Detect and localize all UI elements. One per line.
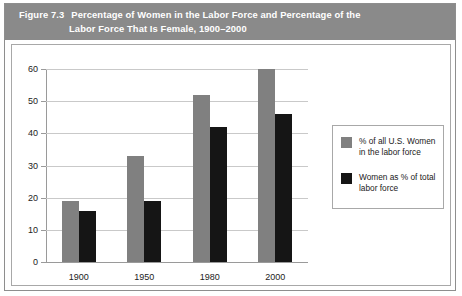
y-tick-40 <box>41 133 46 134</box>
y-axis-label-30: 30 <box>28 161 38 171</box>
figure-container: Figure 7.3Percentage of Women in the Lab… <box>4 3 456 291</box>
y-tick-30 <box>41 166 46 167</box>
y-axis-label-40: 40 <box>28 128 38 138</box>
x-axis-label-2000: 2000 <box>265 272 285 282</box>
figure-title-line-2: Labor Force That Is Female, 1900–2000 <box>19 22 445 36</box>
legend-label-series-a: % of all U.S. Women in the labor force <box>359 136 438 158</box>
gridline-0 <box>46 262 308 263</box>
bar-1900-series-1 <box>62 201 79 262</box>
y-axis-label-60: 60 <box>28 64 38 74</box>
legend-swatch-icon-series-a <box>341 137 352 148</box>
bar-1980-series-2 <box>210 127 227 262</box>
bar-1950-series-1 <box>127 156 144 262</box>
figure-title-line-1: Percentage of Women in the Labor Force a… <box>71 9 360 20</box>
x-axis-label-1950: 1950 <box>134 272 154 282</box>
bar-2000-series-2 <box>275 114 292 262</box>
x-axis-label-1900: 1900 <box>69 272 89 282</box>
y-axis-label-10: 10 <box>28 225 38 235</box>
x-axis-label-1980: 1980 <box>200 272 220 282</box>
chart-panel: 0102030405060 1900195019802000 % of all … <box>11 44 451 286</box>
y-tick-10 <box>41 230 46 231</box>
figure-header-band: Figure 7.3Percentage of Women in the Lab… <box>5 4 455 40</box>
legend-item-series-b: Women as % of total labor force <box>341 172 438 194</box>
y-axis-label-0: 0 <box>33 257 38 267</box>
y-axis-label-50: 50 <box>28 96 38 106</box>
y-tick-60 <box>41 69 46 70</box>
y-tick-20 <box>41 198 46 199</box>
figure-label: Figure 7.3 <box>19 9 64 20</box>
bar-1950-series-2 <box>144 201 161 262</box>
legend-item-series-a: % of all U.S. Women in the labor force <box>341 136 438 158</box>
chart-legend: % of all U.S. Women in the labor force W… <box>332 125 444 209</box>
y-axis-label-20: 20 <box>28 193 38 203</box>
legend-label-series-b: Women as % of total labor force <box>359 172 438 194</box>
bar-1980-series-1 <box>193 95 210 262</box>
y-tick-0 <box>41 262 46 263</box>
legend-swatch-icon-series-b <box>341 173 352 184</box>
y-tick-50 <box>41 101 46 102</box>
bar-1900-series-2 <box>79 211 96 262</box>
figure-caption: Figure 7.3Percentage of Women in the Lab… <box>19 8 445 35</box>
bar-2000-series-1 <box>258 69 275 262</box>
plot-area: 0102030405060 1900195019802000 <box>46 69 308 263</box>
